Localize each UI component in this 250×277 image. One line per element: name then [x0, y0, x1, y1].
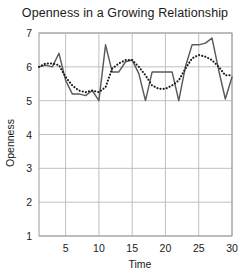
y-tick-label: 2: [26, 196, 32, 208]
x-tick-label: 10: [93, 242, 105, 254]
x-tick-label: 25: [193, 242, 205, 254]
series-line-observed: [39, 38, 232, 101]
chart-plot: 7654321 51015202530 Openness Time: [0, 0, 250, 277]
y-tick-label: 5: [26, 95, 32, 107]
chart-container: Openness in a Growing Relationship 76543…: [0, 0, 250, 277]
x-axis-title: Time: [129, 258, 152, 270]
data-series-group: [39, 38, 232, 101]
y-tick-label: 7: [26, 27, 32, 39]
x-tick-label: 5: [63, 242, 69, 254]
x-tick-labels: 51015202530: [63, 242, 238, 254]
y-tick-label: 6: [26, 61, 32, 73]
gridlines-group: [39, 33, 232, 236]
y-axis-title: Openness: [4, 119, 16, 167]
x-tick-label: 15: [126, 242, 138, 254]
y-tick-label: 4: [26, 129, 32, 141]
x-tick-label: 30: [226, 242, 238, 254]
y-tick-label: 3: [26, 162, 32, 174]
x-tick-label: 20: [160, 242, 172, 254]
y-tick-labels: 7654321: [26, 27, 32, 242]
y-tick-label: 1: [26, 230, 32, 242]
